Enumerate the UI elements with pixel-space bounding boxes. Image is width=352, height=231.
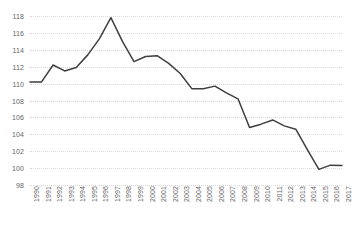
- x-tick-label: 2010: [264, 186, 271, 202]
- x-tick-label: 2016: [333, 186, 340, 202]
- x-tick-label: 2004: [195, 186, 202, 202]
- x-tick-label: 2008: [241, 186, 248, 202]
- x-tick-label: 1998: [125, 186, 132, 202]
- x-tick-label: 2015: [322, 186, 329, 202]
- x-tick-label: 1993: [68, 186, 75, 202]
- y-tick-label: 116: [13, 29, 24, 36]
- x-tick-label: 1992: [56, 186, 63, 202]
- x-tick-label: 2012: [287, 186, 294, 202]
- x-tick-label: 2007: [229, 186, 236, 202]
- x-tick-label: 2013: [299, 186, 306, 202]
- x-tick-label: 1991: [45, 186, 52, 202]
- x-tick-label: 1990: [33, 186, 40, 202]
- x-tick-label: 2001: [160, 186, 167, 202]
- x-tick-label: 2006: [218, 186, 225, 202]
- y-tick-label: 100: [12, 165, 24, 172]
- x-tick-label: 1994: [79, 186, 86, 202]
- x-tick-label: 2000: [149, 186, 156, 202]
- x-tick-label: 2011: [276, 186, 283, 201]
- y-tick-label: 114: [13, 46, 24, 53]
- x-tick-label: 1997: [114, 186, 121, 202]
- x-tick-label: 2014: [310, 186, 317, 202]
- y-tick-label: 118: [13, 13, 24, 20]
- x-tick-label: 2005: [206, 186, 213, 202]
- y-tick-label: 98: [16, 182, 24, 189]
- y-tick-label: 102: [12, 148, 24, 155]
- y-tick-label: 112: [13, 63, 24, 70]
- x-tick-label: 2009: [253, 186, 260, 202]
- x-tick-label: 1996: [102, 186, 109, 202]
- y-tick-label: 108: [12, 97, 24, 104]
- y-axis: 98100102104106108110112114116118: [0, 16, 27, 185]
- x-axis: 1990199119921993199419951996199719981999…: [30, 186, 342, 231]
- y-tick-label: 106: [12, 114, 24, 121]
- data-line-series-1: [30, 18, 342, 170]
- x-tick-label: 2017: [345, 186, 352, 202]
- y-tick-label: 104: [12, 131, 24, 138]
- y-tick-label: 110: [13, 80, 24, 87]
- plot-area: [30, 16, 342, 185]
- series-layer: [30, 16, 342, 185]
- x-tick-label: 2003: [183, 186, 190, 202]
- x-tick-label: 1995: [91, 186, 98, 202]
- x-tick-label: 1999: [137, 186, 144, 202]
- x-tick-label: 2002: [172, 186, 179, 202]
